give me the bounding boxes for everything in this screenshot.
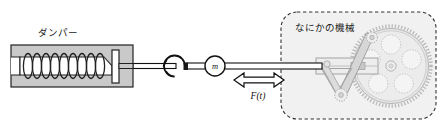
linkage-crank-pin-bore bbox=[370, 35, 374, 39]
linkage-lower-pivot-bore bbox=[339, 93, 344, 98]
force-arrow: F(t) bbox=[234, 73, 284, 102]
damper-left-port bbox=[11, 57, 20, 75]
machine-label: なにかの機械 bbox=[295, 22, 355, 33]
damper-chamber bbox=[20, 57, 112, 75]
gear-cutout bbox=[394, 74, 413, 93]
gear-hub-bore bbox=[389, 64, 393, 68]
mass-label: m bbox=[212, 61, 218, 71]
damper-piston-plate bbox=[112, 50, 119, 83]
gear-cutout bbox=[369, 74, 388, 93]
mass-node: m bbox=[205, 56, 225, 76]
force-arrow-glyph bbox=[234, 73, 284, 87]
gear-cutout bbox=[381, 35, 400, 54]
gear-cutout bbox=[402, 50, 421, 69]
damper-piston-rod bbox=[119, 64, 133, 69]
force-label: F(t) bbox=[250, 91, 266, 102]
damper-assembly bbox=[11, 45, 133, 87]
rod-shaft-left bbox=[128, 64, 176, 69]
damper-label: ダンパー bbox=[38, 27, 78, 38]
figure-canvas: なにかの機械 bbox=[0, 0, 443, 134]
linkage-slider-joint bbox=[324, 61, 330, 67]
